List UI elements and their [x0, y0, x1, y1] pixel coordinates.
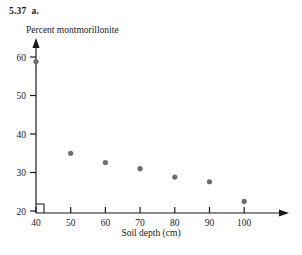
x-tick-label: 80	[170, 218, 180, 228]
x-axis-title: Soil depth (cm)	[0, 228, 302, 238]
axis-break-symbol	[36, 204, 44, 213]
data-point	[103, 160, 108, 165]
data-point-series	[33, 59, 246, 204]
data-point	[138, 166, 143, 171]
data-point	[68, 151, 73, 156]
x-tick-label: 60	[101, 218, 111, 228]
x-tick-label: 70	[135, 218, 145, 228]
scatter-plot: 60 50 40 30 20 40 50 60 70 80 90 100	[0, 0, 302, 255]
x-tick-label: 50	[66, 218, 76, 228]
y-tick-label: 50	[17, 91, 27, 101]
x-axis-ticks: 40 50 60 70 80 90 100	[31, 207, 251, 228]
y-axis-arrowhead	[32, 38, 39, 48]
y-axis-ticks: 60 50 40 30 20	[17, 53, 37, 217]
x-tick-label: 100	[237, 218, 252, 228]
y-tick-label: 60	[17, 53, 27, 63]
figure-container: 5.37a. Percent montmorillonite 60 50 40 …	[0, 0, 302, 255]
y-tick-label: 40	[17, 130, 27, 140]
data-point	[242, 199, 247, 204]
data-point	[172, 175, 177, 180]
x-axis-arrowhead	[279, 209, 289, 216]
y-tick-label: 20	[17, 207, 27, 217]
data-point	[33, 59, 38, 64]
axes	[32, 38, 289, 217]
data-point	[207, 179, 212, 184]
x-tick-label: 40	[31, 218, 41, 228]
y-tick-label: 30	[17, 168, 27, 178]
x-tick-label: 90	[205, 218, 215, 228]
